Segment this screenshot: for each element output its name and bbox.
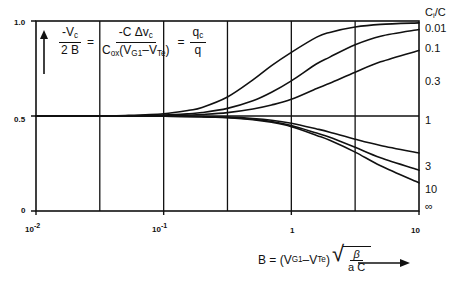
legend-item-0.1[interactable]: 0.1: [425, 42, 440, 54]
formula-num2a: -C: [119, 25, 132, 39]
radical-sign-icon: √: [332, 247, 344, 274]
legend-item-0.01[interactable]: 0.01: [425, 22, 446, 34]
formula-frac-2-num: -C Δvc: [116, 26, 156, 43]
x-tick-base-2: 10: [152, 225, 161, 234]
formula-frac-2: -C Δvc Cox(VG1–VTe): [99, 26, 173, 58]
formula-eq-1: =: [87, 35, 94, 49]
formula-num1: -V: [62, 25, 74, 39]
formula-den2b: (V: [119, 43, 131, 57]
formula-num1-sub: c: [74, 32, 78, 41]
formula-den2a: C: [102, 43, 111, 57]
y-tick-label-mid: 0.5: [14, 115, 25, 124]
xformula-v2-sub: Te: [317, 255, 326, 264]
x-axis-formula: B = (VG1–VTe) √ β a C: [258, 246, 371, 273]
formula-frac-1: -Vc 2 B: [58, 26, 82, 57]
formula-frac-1-num: -Vc: [59, 26, 81, 43]
legend-item-10[interactable]: 10: [425, 183, 437, 195]
x-tick-base-4: 10: [411, 226, 420, 235]
xformula-minus: –V: [303, 253, 318, 267]
legend-title-c: C: [425, 6, 433, 18]
legend-item-1[interactable]: 1: [425, 114, 431, 126]
xformula-v1-sub: G1: [292, 255, 303, 264]
x-tick-base-1: 10: [25, 225, 34, 234]
origin-label: 0: [21, 206, 25, 215]
formula-den2-sub2: G1: [131, 49, 142, 58]
xformula-v1: V: [284, 253, 292, 267]
y-tick-label-top: 1.0: [14, 18, 25, 27]
x-tick-base-3: 1: [290, 226, 294, 235]
formula-den2c: –V: [142, 43, 157, 57]
x-axis-arrow-icon: [358, 258, 410, 268]
xformula-paren-close: ): [326, 253, 330, 267]
formula-frac-3: qc q: [190, 26, 207, 57]
formula-num2b: Δv: [135, 25, 149, 39]
chart-page: 1.0 0.5 0 10-2 10-1 1 10 Ci/C 0.01 0.1 0…: [0, 0, 467, 285]
y-axis-formula: -Vc 2 B = -C Δvc Cox(VG1–VTe) = qc q: [56, 26, 208, 58]
legend-item-inf[interactable]: ∞: [425, 200, 433, 212]
formula-den2d: ): [166, 43, 170, 57]
legend-title-rest: /C: [435, 6, 446, 18]
formula-frac-1-den: 2 B: [58, 43, 82, 58]
formula-num2-sub: c: [149, 31, 153, 40]
x-tick-exp-2: -1: [161, 222, 167, 229]
y-axis-arrow-icon: [38, 30, 50, 74]
xformula-lead: B =: [258, 253, 276, 267]
formula-eq-2: =: [178, 35, 185, 49]
formula-frac-2-den: Cox(VG1–VTe): [99, 43, 173, 59]
formula-frac-3-num: qc: [190, 26, 207, 43]
x-tick-label-2: 10-1: [152, 222, 167, 234]
legend-item-3[interactable]: 3: [425, 160, 431, 172]
x-tick-label-1: 10-2: [25, 222, 40, 234]
x-tick-exp-1: -2: [34, 222, 40, 229]
x-tick-label-3: 1: [290, 223, 294, 235]
formula-frac-3-den: q: [192, 43, 205, 58]
legend-item-0.3[interactable]: 0.3: [425, 75, 440, 87]
legend-title: Ci/C: [425, 6, 446, 20]
x-tick-label-4: 10: [411, 223, 420, 235]
formula-den2-sub3: Te: [157, 49, 166, 58]
formula-num3-sub: c: [199, 32, 203, 41]
